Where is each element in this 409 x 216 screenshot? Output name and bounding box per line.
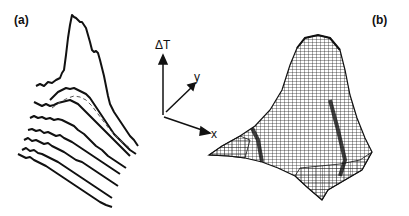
figure: (a) (b) — [0, 0, 409, 216]
axes-diagram — [159, 55, 210, 135]
axis-label-y: y — [194, 70, 200, 84]
panel-b-mesh-surface — [209, 35, 372, 200]
panel-a-traces — [18, 15, 138, 207]
axis-label-x: x — [211, 127, 217, 141]
axis-label-delta-t: ΔT — [155, 38, 170, 52]
figure-graphics — [0, 0, 409, 216]
